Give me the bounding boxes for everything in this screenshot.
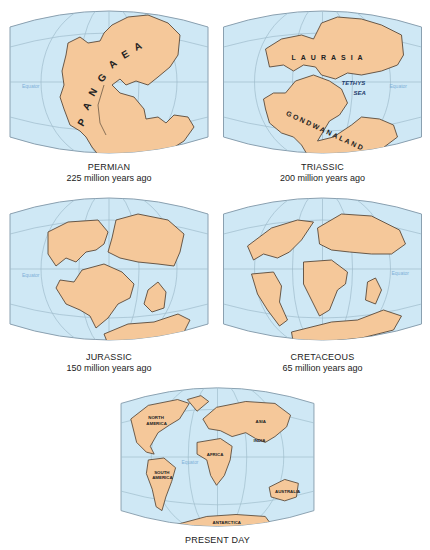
panel-present: NORTH AMERICA SOUTH AMERICA AFRICA ASIA … xyxy=(115,382,320,550)
label-africa: AFRICA xyxy=(207,452,224,457)
equator-label: Equator xyxy=(181,460,198,465)
panel-cretaceous: Equator CRETACEOUS 65 million years ago xyxy=(220,192,425,370)
label-india: INDIA xyxy=(254,438,267,443)
era-label: TRIASSIC xyxy=(220,162,425,173)
age-label: 150 million years ago xyxy=(8,363,210,374)
equator-label: Equator xyxy=(392,270,410,276)
map-cretaceous: Equator xyxy=(220,192,425,348)
era-label: JURASSIC xyxy=(8,352,210,363)
label-north-america-1: NORTH xyxy=(148,415,164,420)
map-present: NORTH AMERICA SOUTH AMERICA AFRICA ASIA … xyxy=(115,382,320,534)
label-laurasia: LAURASIA xyxy=(292,54,368,61)
caption-triassic: TRIASSIC 200 million years ago xyxy=(220,162,425,184)
panel-triassic: LAURASIA GONDWANALAND TETHYS SEA Equator… xyxy=(220,5,425,183)
map-jurassic: Equator xyxy=(8,192,210,348)
equator-label: Equator xyxy=(390,83,408,89)
label-antarctica: ANTARCTICA xyxy=(213,520,242,525)
panel-permian: P A N G A E A Equator PERMIAN 225 millio… xyxy=(8,5,210,183)
map-triassic: LAURASIA GONDWANALAND TETHYS SEA Equator xyxy=(220,5,425,161)
age-label: 65 million years ago xyxy=(220,363,425,374)
era-label: PERMIAN xyxy=(8,162,210,173)
caption-present: PRESENT DAY xyxy=(115,535,320,546)
age-label: 225 million years ago xyxy=(8,173,210,184)
label-north-america-2: AMERICA xyxy=(146,421,167,426)
label-australia: AUSTRALIA xyxy=(275,489,301,494)
map-permian: P A N G A E A Equator xyxy=(8,5,210,161)
label-sea: SEA xyxy=(354,90,366,96)
label-south-america-1: SOUTH xyxy=(154,470,169,475)
equator-label: Equator xyxy=(22,272,40,278)
age-label: 200 million years ago xyxy=(220,173,425,184)
era-label: CRETACEOUS xyxy=(220,352,425,363)
panel-jurassic: Equator JURASSIC 150 million years ago xyxy=(8,192,210,370)
caption-cretaceous: CRETACEOUS 65 million years ago xyxy=(220,352,425,374)
caption-permian: PERMIAN 225 million years ago xyxy=(8,162,210,184)
era-label: PRESENT DAY xyxy=(115,535,320,546)
label-south-america-2: AMERICA xyxy=(152,475,173,480)
caption-jurassic: JURASSIC 150 million years ago xyxy=(8,352,210,374)
equator-label: Equator xyxy=(22,83,40,89)
label-tethys: TETHYS xyxy=(342,80,366,86)
label-asia: ASIA xyxy=(256,419,267,424)
